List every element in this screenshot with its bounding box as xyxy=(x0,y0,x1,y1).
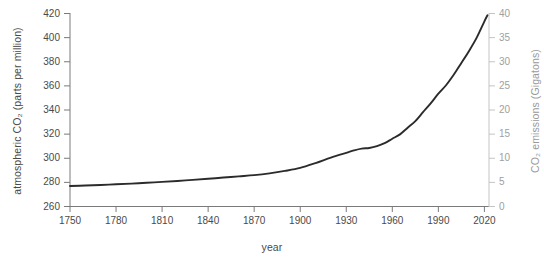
co2-data-line xyxy=(70,15,487,186)
y-axis-label-right: CO₂ emissions (Gigatons) xyxy=(529,11,541,211)
y-tick-label-right: 20 xyxy=(499,104,525,115)
y-tick-label-right: 0 xyxy=(499,201,525,212)
x-tick-label: 1870 xyxy=(234,215,274,226)
y-tick-label-right: 5 xyxy=(499,176,525,187)
co2-chart: atmospheric CO₂ (parts per million) CO₂ … xyxy=(0,0,544,260)
y-tick-label-left: 400 xyxy=(26,32,60,43)
x-tick-label: 1900 xyxy=(280,215,320,226)
x-tick-label: 1990 xyxy=(418,215,458,226)
x-tick-label: 1960 xyxy=(372,215,412,226)
y-tick-label-left: 360 xyxy=(26,80,60,91)
x-tick-label: 1750 xyxy=(50,215,90,226)
y-tick-label-left: 340 xyxy=(26,104,60,115)
x-tick-label: 1780 xyxy=(96,215,136,226)
x-tick-label: 1930 xyxy=(326,215,366,226)
y-tick-label-left: 320 xyxy=(26,128,60,139)
y-tick-label-left: 380 xyxy=(26,56,60,67)
bottom-axis xyxy=(70,207,489,213)
y-tick-label-right: 25 xyxy=(499,80,525,91)
y-tick-label-left: 280 xyxy=(26,176,60,187)
y-tick-label-right: 40 xyxy=(499,8,525,19)
x-tick-label: 2020 xyxy=(464,215,504,226)
y-tick-label-right: 30 xyxy=(499,56,525,67)
x-tick-label: 1840 xyxy=(188,215,228,226)
y-tick-label-left: 420 xyxy=(26,8,60,19)
x-tick-label: 1810 xyxy=(142,215,182,226)
y-tick-label-left: 300 xyxy=(26,152,60,163)
y-axis-label-left: atmospheric CO₂ (parts per million) xyxy=(11,11,23,211)
y-tick-label-right: 15 xyxy=(499,128,525,139)
right-axis xyxy=(489,13,495,207)
left-axis xyxy=(64,13,70,207)
figure-caption xyxy=(6,252,540,260)
y-tick-label-right: 35 xyxy=(499,32,525,43)
y-tick-label-right: 10 xyxy=(499,152,525,163)
y-tick-label-left: 260 xyxy=(26,201,60,212)
